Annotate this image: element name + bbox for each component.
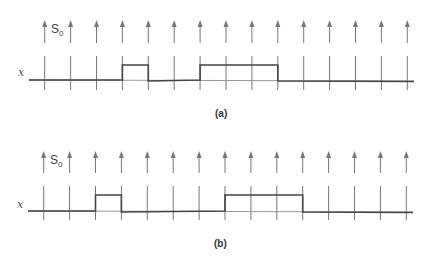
arrow-head-icon [352,151,357,158]
arrow-head-icon [68,20,73,27]
arrow-head-icon [378,151,383,158]
arrow-head-icon [93,151,98,158]
arrow-head-icon [171,151,176,158]
arrow-head-icon [67,151,72,158]
arrow-head-icon [379,20,384,27]
arrow-head-icon [301,20,306,27]
caption-b: (b) [214,238,227,249]
arrow-head-icon [300,151,305,158]
arrow-head-icon [223,151,228,158]
arrow-head-icon [41,151,46,158]
arrow-head-icon [94,20,99,27]
sampling-diagram [0,0,430,264]
signal-label-a: x [18,66,24,79]
arrow-head-icon [405,20,410,27]
arrow-head-icon [172,20,177,27]
sample-label-a: S0 [51,22,63,38]
arrow-head-icon [145,151,150,158]
arrow-head-icon [326,151,331,158]
signal-waveform [28,195,413,213]
arrow-head-icon [404,151,409,158]
arrow-head-icon [353,20,358,27]
caption-a: (a) [215,108,227,119]
arrow-head-icon [275,20,280,27]
arrow-head-icon [42,20,47,27]
arrow-head-icon [198,20,203,27]
arrow-head-icon [119,151,124,158]
arrow-head-icon [224,20,229,27]
arrow-head-icon [327,20,332,27]
signal-label-b: x [17,198,23,211]
signal-waveform [29,65,414,82]
arrow-head-icon [274,151,279,158]
arrow-head-icon [197,151,202,158]
arrow-head-icon [120,20,125,27]
arrow-head-icon [248,151,253,158]
arrow-head-icon [249,20,254,27]
sample-label-b: S0 [50,153,62,169]
arrow-head-icon [146,20,151,27]
